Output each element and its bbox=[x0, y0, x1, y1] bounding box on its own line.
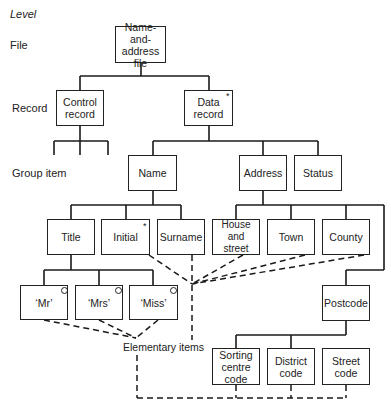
level-record-label: Record bbox=[12, 102, 47, 114]
node-status: Status bbox=[294, 155, 342, 191]
elementary-items-label: Elementary items bbox=[122, 341, 205, 353]
node-street-code: Street code bbox=[322, 348, 370, 385]
node-name-and-address-file: Name-and- address file bbox=[115, 26, 166, 63]
selection-marker-mrs bbox=[115, 287, 122, 294]
node-title: Title bbox=[47, 219, 95, 255]
repeat-marker-data-record: * bbox=[226, 92, 230, 101]
node-postcode: Postcode bbox=[322, 285, 370, 321]
level-file-label: File bbox=[10, 39, 28, 51]
node-name: Name bbox=[128, 155, 177, 191]
node-town: Town bbox=[267, 219, 315, 255]
repeat-marker-initial: * bbox=[143, 222, 147, 231]
node-county: County bbox=[322, 219, 370, 255]
selection-marker-mr bbox=[61, 287, 68, 294]
level-heading: Level bbox=[10, 8, 36, 20]
node-control-record: Control record bbox=[56, 90, 104, 126]
node-house-and-street: House and street bbox=[212, 219, 260, 255]
selection-marker-miss bbox=[170, 287, 177, 294]
node-address: Address bbox=[239, 155, 287, 191]
node-district-code: District code bbox=[267, 348, 315, 385]
node-surname: Surname bbox=[157, 219, 205, 255]
level-group-item-label: Group item bbox=[12, 167, 66, 179]
node-sorting-centre-code: Sorting centre code bbox=[212, 348, 260, 385]
